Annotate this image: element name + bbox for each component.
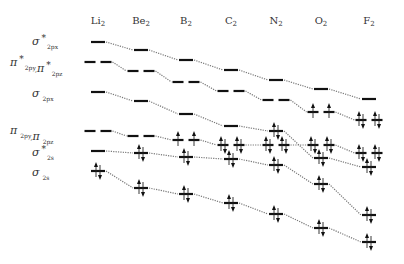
molecule-header: Li2 (91, 15, 105, 28)
orbital-pi-2p-c2 (218, 136, 245, 154)
orbital-label-sigma-star-2s: σ*2s (32, 144, 54, 161)
electron-arrows (176, 131, 196, 146)
connector-line (106, 151, 133, 153)
molecule-header: N2 (269, 15, 282, 28)
molecule-header: Be2 (132, 15, 150, 28)
connector-line (194, 194, 223, 203)
connector-line (239, 159, 268, 165)
orbital-sigma-2px-n2 (269, 122, 283, 140)
connector-line (149, 101, 178, 114)
orbital-sigma-2s-c2 (224, 194, 238, 212)
orbital-sigma-star-2s-b2 (179, 148, 193, 166)
orbital-sigma-2s-n2 (269, 205, 283, 223)
orbital-label-sigma-star-2px: σ*2px (32, 33, 59, 51)
connector-line (284, 80, 313, 89)
connector-line (239, 203, 268, 214)
orbital-labels: σ*2pxπ*2py,π*2pzσ2pxπ2py,π2pzσ*2sσ2s (9, 33, 62, 181)
connector-line (194, 60, 223, 70)
orbital-label-pi-star-2p: π*2py,π*2pz (9, 54, 62, 78)
orbital-sigma-2s-be2 (134, 179, 148, 197)
connector-line (239, 126, 268, 131)
orbital-pi-2p-f2 (356, 144, 383, 162)
molecule-header: B2 (180, 15, 192, 28)
orbital-pi-2p-b2 (173, 131, 200, 146)
connector-line (201, 140, 217, 145)
orbital-pi-star-2p-o2 (308, 103, 335, 118)
connector-line (149, 153, 178, 157)
molecule-headers: Li2Be2B2C2N2O2F2 (91, 15, 375, 28)
orbital-sigma-2s-li2 (91, 162, 105, 180)
molecule-header: F2 (363, 15, 374, 28)
connector-line (149, 50, 178, 60)
connector-line (246, 91, 262, 100)
connector-line (336, 145, 355, 153)
connector-line (201, 82, 217, 91)
connector-line (284, 214, 313, 228)
mo-diagram: Li2Be2B2C2N2O2F2 σ*2pxπ*2py,π*2pzσ2pxπ2p… (0, 0, 404, 264)
molecule-header: O2 (315, 15, 328, 28)
connector-line (336, 112, 355, 120)
connector-line (284, 165, 313, 184)
orbital-sigma-star-2s-n2 (269, 156, 283, 174)
connector-line (113, 131, 127, 136)
orbital-sigma-2px-o2 (314, 149, 328, 167)
connector-line (113, 62, 127, 71)
orbital-label-sigma-2px: σ2px (32, 87, 54, 103)
orbital-pi-star-2p-f2 (356, 111, 383, 129)
connector-line (149, 188, 178, 194)
orbital-pi-2p-n2 (263, 136, 290, 154)
connector-line (329, 184, 361, 215)
connector-line (194, 157, 223, 159)
connector-line (329, 228, 361, 242)
orbital-pi-2p-o2 (308, 136, 335, 154)
connector-line (106, 42, 133, 50)
orbital-sigma-star-2s-o2 (314, 175, 328, 193)
orbital-sigma-star-2s-c2 (224, 150, 238, 168)
orbital-sigma-2px-f2 (362, 158, 376, 176)
connector-line (156, 71, 172, 82)
orbital-label-sigma-2s: σ2s (32, 166, 49, 181)
connector-line (156, 136, 172, 140)
orbital-sigma-2s-f2 (362, 233, 376, 251)
molecule-header: C2 (225, 15, 237, 28)
orbital-sigma-star-2s-f2 (362, 206, 376, 224)
connector-line (239, 70, 268, 80)
electron-arrows (311, 103, 331, 118)
orbital-sigma-2s-o2 (314, 219, 328, 237)
connector-line (106, 171, 133, 188)
orbital-sigma-star-2s-be2 (134, 144, 148, 162)
orbital-label-pi-2p: π2py,π2pz (9, 124, 53, 146)
connector-line (106, 92, 133, 101)
orbital-sigma-2s-b2 (179, 185, 193, 203)
connector-line (329, 158, 361, 167)
connector-line (329, 89, 361, 99)
connector-line (291, 100, 307, 112)
connector-line (194, 114, 223, 126)
